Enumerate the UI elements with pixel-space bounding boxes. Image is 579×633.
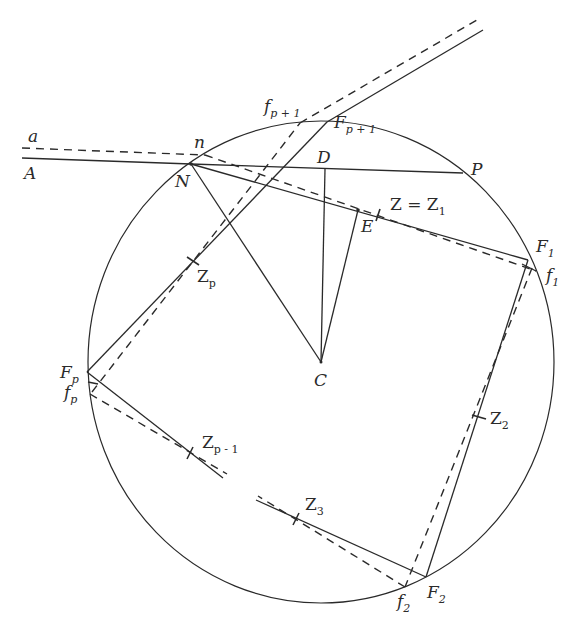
exit-ray-solid bbox=[327, 30, 483, 122]
label-Z3: Z3 bbox=[305, 494, 324, 518]
tick-Zp bbox=[187, 257, 199, 265]
chord-f2-z3 bbox=[258, 496, 405, 587]
point-E bbox=[356, 208, 360, 212]
label-f2: f2 bbox=[395, 591, 410, 615]
label-Zp-1: Zp - 1 bbox=[202, 432, 239, 456]
label-f1: f1 bbox=[544, 265, 559, 289]
label-F1: F1 bbox=[535, 236, 555, 260]
chord-fp-fp+1 bbox=[92, 123, 300, 392]
label-a: a bbox=[28, 126, 38, 146]
segment-D-C bbox=[321, 169, 325, 362]
exit-ray-dashed bbox=[300, 20, 477, 123]
label-Z2: Z2 bbox=[490, 408, 509, 432]
chord-Fp-Zp-1 bbox=[87, 372, 223, 478]
chord-f1-f2 bbox=[405, 268, 532, 587]
label-n: n bbox=[194, 132, 205, 152]
chord-F1-F2 bbox=[426, 260, 528, 577]
segment-N-C bbox=[191, 164, 321, 362]
tick-Z2 bbox=[472, 415, 486, 419]
label-N: N bbox=[174, 171, 191, 191]
chord-F2-Z3 bbox=[256, 500, 426, 577]
label-A: A bbox=[22, 163, 36, 183]
label-Fp+1: Fp + 1 bbox=[333, 112, 376, 136]
line-a-n bbox=[22, 148, 205, 155]
label-fp+1: fp + 1 bbox=[262, 96, 301, 120]
point-N bbox=[189, 162, 193, 166]
label-F2: F2 bbox=[426, 582, 446, 606]
segment-E-C bbox=[321, 210, 358, 362]
label-C: C bbox=[314, 370, 327, 390]
chord-n-f1 bbox=[205, 155, 536, 271]
label-Zp: Zp bbox=[197, 266, 216, 290]
line-A-N bbox=[22, 158, 191, 164]
label-E: E bbox=[360, 216, 374, 236]
label-Z-eq-Z1: Z = Z1 bbox=[390, 194, 446, 218]
tick-Z1 bbox=[376, 209, 380, 221]
label-D: D bbox=[316, 147, 331, 167]
chord-Fp-Fp+1 bbox=[87, 122, 327, 372]
reflection-diagram: a A n N D P E C Z = Z1 F1 f1 Z2 Z3 F2 f2… bbox=[0, 0, 579, 633]
label-P: P bbox=[470, 159, 483, 179]
point-C bbox=[320, 361, 323, 364]
